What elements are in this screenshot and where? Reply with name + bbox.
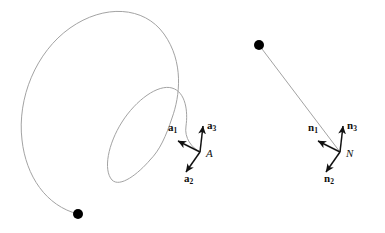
vector-label-n2: n2 — [324, 173, 334, 184]
figure-canvas — [0, 0, 385, 233]
spiral-inner-loop — [107, 87, 200, 182]
start-marker-right — [254, 40, 264, 50]
vector-a2-arrow — [186, 152, 200, 172]
vector-n1-arrow — [318, 141, 340, 152]
point-label-N: N — [346, 148, 353, 159]
vector-a3-arrow — [200, 126, 203, 152]
vector-n2-arrow — [326, 152, 340, 172]
vector-label-a2: a2 — [184, 173, 193, 184]
straight-curve — [259, 45, 340, 152]
start-marker-left — [73, 209, 83, 219]
vector-label-n3: n3 — [347, 120, 357, 131]
vector-basis-figure: a1 a3 a2 A n1 n3 n2 N — [0, 0, 385, 233]
vector-label-a1: a1 — [168, 122, 177, 133]
vector-label-a3: a3 — [207, 120, 216, 131]
vector-a1-arrow — [178, 141, 200, 152]
point-label-A: A — [206, 148, 213, 159]
vector-n3-arrow — [340, 126, 343, 152]
spiral-curve — [21, 11, 178, 214]
vector-label-n1: n1 — [308, 122, 318, 133]
